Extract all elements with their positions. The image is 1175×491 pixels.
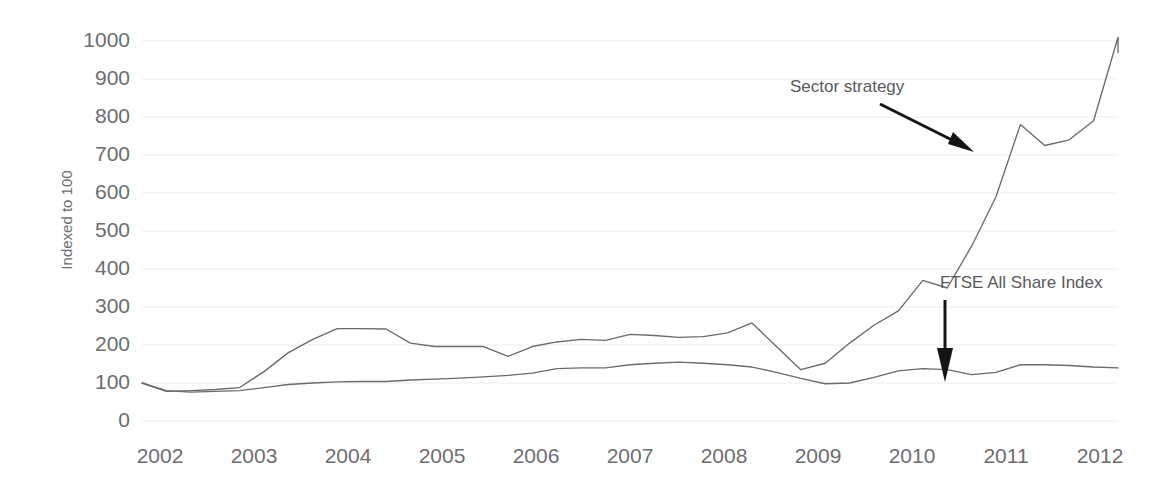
annotation-sector-strategy-arrow-line (880, 104, 962, 145)
annotation-sector-strategy: Sector strategy (790, 77, 974, 152)
x-tick-2011: 2011 (983, 444, 1028, 467)
x-tick-2009: 2009 (795, 444, 842, 467)
line-chart: 1000 900 800 700 600 500 400 300 200 100… (0, 0, 1175, 491)
x-tick-2005: 2005 (419, 444, 466, 467)
x-tick-2012: 2012 (1077, 444, 1124, 467)
annotation-sector-strategy-arrow-head (948, 132, 974, 152)
y-tick-200: 200 (95, 332, 130, 355)
x-tick-2010: 2010 (889, 444, 936, 467)
gridlines-group (142, 41, 1118, 421)
y-tick-300: 300 (95, 294, 130, 317)
x-tick-2007: 2007 (607, 444, 654, 467)
y-tick-400: 400 (95, 256, 130, 279)
x-tick-2002: 2002 (137, 444, 184, 467)
y-tick-600: 600 (95, 180, 130, 203)
annotation-ftse-arrow-head (937, 348, 953, 382)
chart-canvas: 1000 900 800 700 600 500 400 300 200 100… (0, 0, 1175, 491)
y-axis-title: Indexed to 100 (58, 170, 75, 269)
x-tick-2004: 2004 (325, 444, 372, 467)
y-tick-0: 0 (118, 408, 130, 431)
series-line-0 (142, 37, 1118, 391)
y-tick-500: 500 (95, 218, 130, 241)
y-tick-700: 700 (95, 142, 130, 165)
y-tick-900: 900 (95, 66, 130, 89)
y-tick-100: 100 (95, 370, 130, 393)
series-line-1 (142, 362, 1118, 392)
annotation-sector-strategy-label: Sector strategy (790, 77, 905, 96)
x-tick-2008: 2008 (701, 444, 748, 467)
x-axis-tick-labels: 2002 2003 2004 2005 2006 2007 2008 2009 … (137, 444, 1124, 467)
y-tick-1000: 1000 (83, 28, 130, 51)
series-group (142, 37, 1118, 392)
x-tick-2003: 2003 (231, 444, 278, 467)
y-tick-800: 800 (95, 104, 130, 127)
annotation-ftse-label: FTSE All Share Index (940, 273, 1103, 292)
y-axis-tick-labels: 1000 900 800 700 600 500 400 300 200 100… (83, 28, 130, 431)
x-tick-2006: 2006 (513, 444, 560, 467)
